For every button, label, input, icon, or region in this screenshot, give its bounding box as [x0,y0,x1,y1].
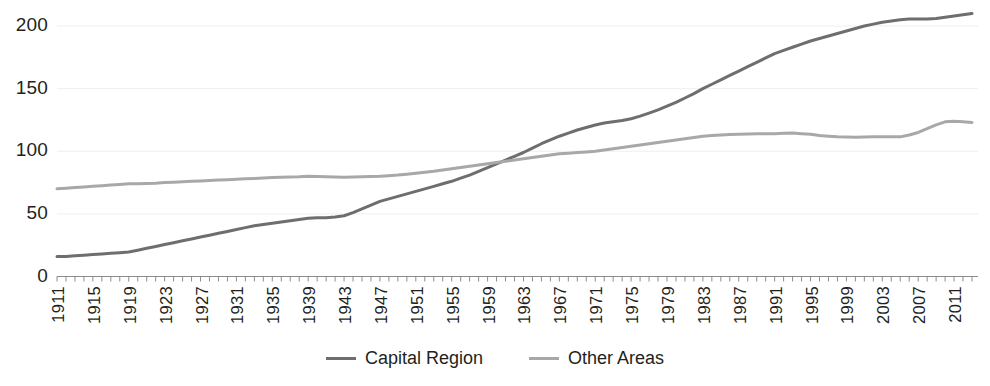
plot-area [0,0,990,386]
y-tick-label: 0 [2,265,48,287]
y-tick-label: 50 [2,202,48,224]
x-tick-label: 1935 [264,286,283,324]
legend-item-capital-region[interactable]: Capital Region [326,348,483,369]
x-tick-label: 1943 [336,286,355,324]
series-line-capital-region [57,13,972,256]
x-tick-label: 1955 [444,286,463,324]
x-tick-label: 1931 [228,286,247,324]
x-tick-label: 2011 [946,286,965,323]
legend-swatch-capital-region [326,357,356,360]
x-tick-label: 1987 [731,286,750,324]
x-tick-label: 1927 [193,286,212,324]
y-tick-label: 200 [2,14,48,36]
x-tick-label: 1951 [408,286,427,324]
x-tick-label: 1939 [300,286,319,324]
chart-legend: Capital Region Other Areas [0,348,990,369]
y-tick-label: 150 [2,77,48,99]
x-tick-label: 1975 [623,286,642,324]
x-tick-label: 1919 [121,286,140,324]
x-tick-label: 1959 [480,286,499,324]
x-tick-label: 1999 [838,286,857,324]
x-tick-label: 1995 [803,286,822,324]
x-tick-label: 1971 [587,286,606,324]
legend-item-other-areas[interactable]: Other Areas [529,348,664,369]
x-tick-label: 2003 [874,286,893,324]
line-chart: 050100150200 191119151919192319271931193… [0,0,990,386]
x-tick-label: 1991 [767,286,786,324]
x-tick-label: 1947 [372,286,391,324]
x-tick-label: 1979 [659,286,678,324]
legend-label-other-areas: Other Areas [568,348,664,369]
series-lines [57,13,972,256]
legend-swatch-other-areas [529,357,559,360]
x-tick-label: 1915 [85,286,104,324]
x-tick-label: 1983 [695,286,714,324]
y-tick-label: 100 [2,139,48,161]
x-tick-label: 1923 [157,286,176,324]
x-tick-label: 1911 [49,286,68,323]
legend-label-capital-region: Capital Region [365,348,483,369]
x-tick-label: 2007 [910,286,929,324]
x-tick-label: 1963 [515,286,534,324]
x-axis [57,277,972,282]
x-tick-label: 1967 [551,286,570,324]
